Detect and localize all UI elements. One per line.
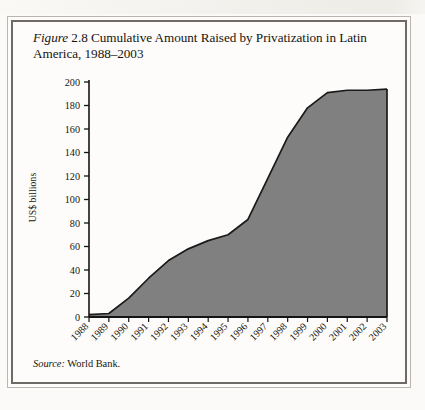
source-label: Source:: [33, 358, 65, 369]
x-axis-tick-label: 1999: [287, 321, 309, 343]
x-axis-tick-label: 1998: [267, 321, 289, 343]
y-axis-tick-label: 80: [70, 218, 80, 229]
x-axis-tick-label: 1994: [188, 321, 210, 343]
figure-caption: Figure 2.8 Cumulative Amount Raised by P…: [33, 30, 385, 62]
y-axis-tick-label: 20: [70, 288, 80, 299]
x-axis-tick-label: 1992: [148, 321, 170, 343]
y-axis-tick-label: 160: [65, 124, 80, 135]
y-axis-tick-label: 100: [65, 194, 80, 205]
x-axis-tick-label: 1990: [108, 321, 130, 343]
source-text: World Bank.: [67, 358, 120, 369]
x-axis-tick-label: 1996: [227, 321, 249, 343]
y-axis-tick-label: 120: [65, 171, 80, 182]
source-note: Source: World Bank.: [33, 358, 120, 369]
figure-box: Figure 2.8 Cumulative Amount Raised by P…: [11, 20, 407, 384]
y-axis-tick-label: 60: [70, 241, 80, 252]
y-axis-tick-label: 0: [75, 312, 80, 323]
y-axis-tick-label: 200: [65, 77, 80, 88]
x-axis-tick-label: 2003: [366, 321, 388, 343]
x-axis-tick-label: 2001: [327, 321, 349, 343]
y-axis-tick-label: 140: [65, 147, 80, 158]
x-axis-tick-label: 2002: [347, 321, 369, 343]
x-axis-tick-label: 2000: [307, 321, 329, 343]
y-axis-tick-label: 180: [65, 100, 80, 111]
x-axis-tick-label: 1993: [168, 321, 190, 343]
x-axis-tick-label: 1989: [88, 321, 110, 343]
caption-figure-word: Figure: [33, 30, 68, 45]
x-axis-tick-label: 1988: [68, 321, 90, 343]
page-scan-artifact: [0, 0, 425, 14]
area-fill: [89, 89, 387, 317]
area-chart-svg: 0204060801001201401601802001988198919901…: [13, 74, 405, 344]
chart-area-plot: US$ billions 020406080100120140160180200…: [13, 74, 405, 344]
caption-number: 2.8: [71, 30, 87, 45]
x-axis-tick-label: 1997: [247, 321, 269, 343]
x-axis-tick-label: 1991: [128, 321, 150, 343]
y-axis-tick-label: 40: [70, 265, 80, 276]
x-axis-tick-label: 1995: [208, 321, 230, 343]
